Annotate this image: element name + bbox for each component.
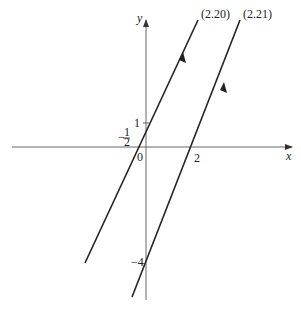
line-label-2-21: (2.21) [243,7,272,21]
coordinate-diagram: y x 0 1 2 −4 − 1 2 (2.20) (2.21) [0,0,301,309]
tick-label-x-2: 2 [194,151,200,165]
tick-label-y-minus-4: −4 [131,255,144,269]
line-2-21 [132,20,240,297]
x-axis-label: x [285,149,292,163]
line-label-2-20: (2.20) [201,7,230,21]
y-axis-label: y [136,11,143,25]
line-2-20 [85,20,198,263]
tick-label-x-minus-half: − 1 2 [118,125,130,149]
tick-label-y-1: 1 [134,116,140,130]
origin-label: 0 [137,150,143,164]
svg-text:2: 2 [124,135,130,149]
direction-arrow-icon [220,82,227,93]
